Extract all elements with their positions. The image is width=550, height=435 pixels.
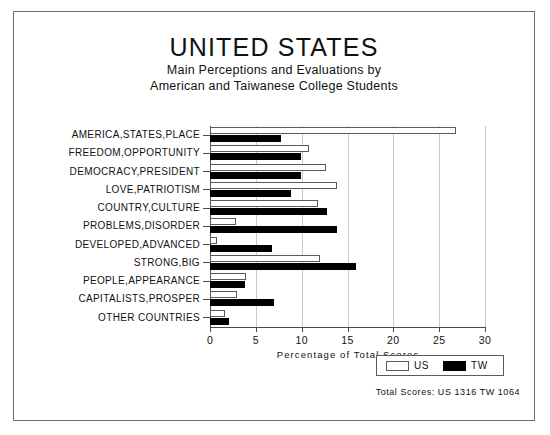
legend-item-tw: TW <box>443 360 488 371</box>
y-tick <box>203 189 210 190</box>
chart-row: STRONG,BIG <box>14 254 536 272</box>
y-tick <box>203 299 210 300</box>
chart-row: CAPITALISTS,PROSPER <box>14 290 536 308</box>
y-tick <box>203 244 210 245</box>
y-tick <box>203 135 210 136</box>
category-label: OTHER COUNTRIES <box>98 312 200 323</box>
bar-us <box>210 237 217 244</box>
x-tick-label-15: 15 <box>341 334 353 346</box>
figure-frame: UNITED STATES Main Perceptions and Evalu… <box>13 11 535 421</box>
x-tick-30 <box>485 327 486 332</box>
bar-us <box>210 145 309 152</box>
legend-label-tw: TW <box>471 360 488 371</box>
y-tick <box>203 171 210 172</box>
bar-tw <box>210 299 274 306</box>
category-label: FREEDOM,OPPORTUNITY <box>69 147 200 158</box>
chart-row: DEVELOPED,ADVANCED <box>14 236 536 254</box>
y-tick <box>203 208 210 209</box>
bar-us <box>210 164 326 171</box>
bar-us <box>210 310 225 317</box>
legend-swatch-us-icon <box>386 361 409 371</box>
x-tick-label-25: 25 <box>433 334 445 346</box>
bar-tw <box>210 281 245 288</box>
category-label: DEVELOPED,ADVANCED <box>75 239 200 250</box>
x-tick-15 <box>348 327 349 332</box>
total-scores-footnote: Total Scores: US 1316 TW 1064 <box>330 387 520 397</box>
chart-row: COUNTRY,CULTURE <box>14 199 536 217</box>
bar-us <box>210 182 337 189</box>
y-tick <box>203 226 210 227</box>
x-tick-label-30: 30 <box>479 334 491 346</box>
bar-us <box>210 291 237 298</box>
x-tick-label-0: 0 <box>207 334 213 346</box>
chart-row: PROBLEMS,DISORDER <box>14 217 536 235</box>
y-tick <box>203 281 210 282</box>
bar-us <box>210 273 246 280</box>
chart-row: LOVE,PATRIOTISM <box>14 181 536 199</box>
bar-tw <box>210 263 356 270</box>
legend-label-us: US <box>414 360 429 371</box>
x-tick-20 <box>393 327 394 332</box>
bar-tw <box>210 172 301 179</box>
x-tick-label-5: 5 <box>253 334 259 346</box>
bar-tw <box>210 153 301 160</box>
bar-tw <box>210 245 272 252</box>
y-tick <box>203 262 210 263</box>
x-tick-10 <box>302 327 303 332</box>
category-label: PEOPLE,APPEARANCE <box>83 275 200 286</box>
x-tick-label-10: 10 <box>295 334 307 346</box>
y-tick <box>203 153 210 154</box>
chart-row: PEOPLE,APPEARANCE <box>14 272 536 290</box>
bar-tw <box>210 190 291 197</box>
chart-row: FREEDOM,OPPORTUNITY <box>14 144 536 162</box>
bar-us <box>210 127 456 134</box>
bar-tw <box>210 208 327 215</box>
category-label: DEMOCRACY,PRESIDENT <box>70 166 200 177</box>
bar-us <box>210 200 318 207</box>
bar-us <box>210 255 320 262</box>
x-tick-25 <box>439 327 440 332</box>
category-label: STRONG,BIG <box>134 257 200 268</box>
category-label: LOVE,PATRIOTISM <box>106 184 200 195</box>
y-tick <box>203 317 210 318</box>
x-tick-5 <box>256 327 257 332</box>
chart-row: DEMOCRACY,PRESIDENT <box>14 163 536 181</box>
x-tick-0 <box>210 327 211 332</box>
category-label: COUNTRY,CULTURE <box>98 202 201 213</box>
bar-tw <box>210 318 229 325</box>
chart-legend: US TW <box>376 355 504 376</box>
legend-swatch-tw-icon <box>443 361 466 371</box>
bar-tw <box>210 135 281 142</box>
legend-item-us: US <box>386 360 429 371</box>
category-label: PROBLEMS,DISORDER <box>83 220 200 231</box>
bar-us <box>210 218 236 225</box>
chart-row: AMERICA,STATES,PLACE <box>14 126 536 144</box>
bar-tw <box>210 226 337 233</box>
chart-row: OTHER COUNTRIES <box>14 309 536 327</box>
x-tick-label-20: 20 <box>387 334 399 346</box>
category-label: AMERICA,STATES,PLACE <box>72 129 200 140</box>
category-label: CAPITALISTS,PROSPER <box>79 293 201 304</box>
